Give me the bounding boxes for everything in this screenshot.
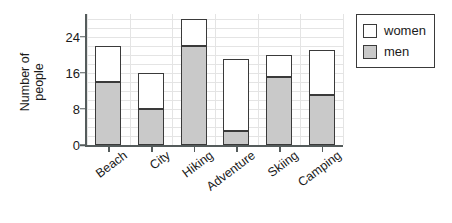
y-axis-tick-labels: 081624: [55, 14, 82, 149]
y-axis-title-rotated-text: Number of people: [18, 53, 46, 111]
bar-skiing[interactable]: [266, 14, 292, 145]
y-axis-line: [85, 14, 87, 146]
bar-segment-men[interactable]: [309, 95, 335, 145]
chart-legend: womenmen: [356, 14, 435, 68]
y-axis-tick-label: 24: [66, 30, 80, 43]
bar-segment-women[interactable]: [138, 73, 164, 109]
y-axis-tick-label: 8: [73, 102, 80, 115]
stacked-bar-chart-figure: Number of people 081624 BeachCityHikingA…: [0, 0, 452, 223]
bar-segment-women[interactable]: [223, 59, 249, 131]
plot-wrapper: 081624: [55, 14, 345, 149]
bar-city[interactable]: [138, 14, 164, 145]
bar-segment-men[interactable]: [223, 131, 249, 145]
bar-segment-men[interactable]: [266, 77, 292, 145]
legend-label: men: [384, 45, 409, 58]
legend-item-men[interactable]: men: [363, 41, 426, 62]
x-axis-tick-label-hiking: Hiking: [180, 149, 216, 180]
bar-adventure[interactable]: [223, 14, 249, 145]
y-axis-title-line-2: people: [32, 53, 46, 111]
bar-segment-women[interactable]: [266, 55, 292, 78]
bar-hiking[interactable]: [181, 14, 207, 145]
legend-label: women: [384, 24, 426, 37]
x-axis-line: [85, 145, 343, 147]
bar-beach[interactable]: [95, 14, 121, 145]
y-axis-tick-label: 16: [66, 66, 80, 79]
x-axis-tick-label-city: City: [148, 149, 173, 172]
y-axis-title-line-1: Number of: [18, 53, 32, 111]
x-axis-tick-label-camping: Camping: [296, 149, 344, 189]
y-axis-tick-mark: [80, 108, 86, 110]
y-axis-tick-mark: [80, 144, 86, 146]
x-axis-tick-labels: BeachCityHikingAdventureSkiingCamping: [55, 149, 355, 223]
gridline-vertical: [87, 14, 88, 145]
plot-area: [87, 14, 343, 145]
y-axis-tick-mark: [80, 72, 86, 74]
bar-segment-men[interactable]: [181, 46, 207, 145]
gridline-vertical: [215, 14, 216, 145]
gridline-vertical: [172, 14, 173, 145]
gridline-vertical: [130, 14, 131, 145]
y-axis-title: Number of people: [6, 22, 58, 142]
gridline-vertical: [343, 14, 344, 145]
bar-segment-women[interactable]: [95, 46, 121, 82]
gridline-vertical: [300, 14, 301, 145]
y-axis-tick-mark: [80, 36, 86, 38]
bar-segment-men[interactable]: [138, 109, 164, 145]
legend-swatch-icon: [363, 24, 377, 38]
gridline-vertical: [258, 14, 259, 145]
bar-camping[interactable]: [309, 14, 335, 145]
bar-segment-women[interactable]: [181, 19, 207, 46]
x-axis-tick-label-skiing: Skiing: [266, 149, 301, 180]
bar-segment-women[interactable]: [309, 50, 335, 95]
legend-swatch-icon: [363, 45, 377, 59]
x-axis-tick-label-beach: Beach: [94, 149, 130, 181]
bar-segment-men[interactable]: [95, 82, 121, 145]
legend-item-women[interactable]: women: [363, 20, 426, 41]
